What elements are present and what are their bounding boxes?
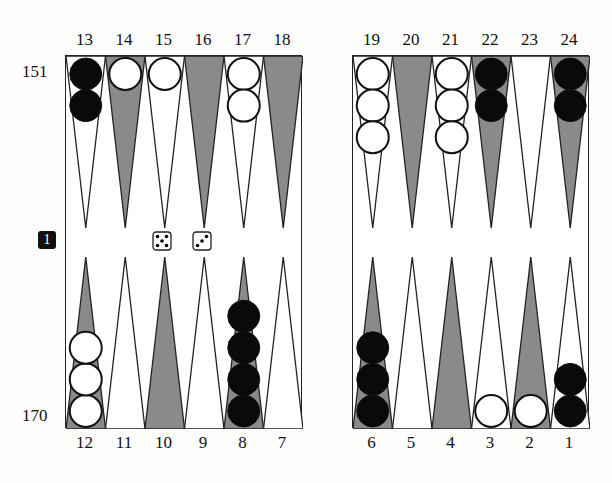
point-label-10: 10 xyxy=(144,433,184,453)
die-five[interactable] xyxy=(152,231,172,251)
white-checker[interactable] xyxy=(475,395,507,427)
point-4[interactable] xyxy=(432,257,472,429)
point-22[interactable] xyxy=(472,56,512,228)
point-label-1: 1 xyxy=(549,433,589,453)
point-9[interactable] xyxy=(185,257,225,429)
white-checker[interactable] xyxy=(70,395,102,427)
point-3[interactable] xyxy=(472,257,512,429)
black-checker[interactable] xyxy=(357,332,389,364)
point-16[interactable] xyxy=(185,56,225,228)
white-checker[interactable] xyxy=(149,58,181,90)
point-label-13: 13 xyxy=(65,30,105,50)
point-10[interactable] xyxy=(145,257,185,429)
point-8[interactable] xyxy=(224,257,264,429)
point-label-14: 14 xyxy=(104,30,144,50)
black-checker[interactable] xyxy=(228,363,260,395)
point-19[interactable] xyxy=(353,56,393,228)
black-checker[interactable] xyxy=(554,395,586,427)
black-checker[interactable] xyxy=(554,363,586,395)
point-15[interactable] xyxy=(145,56,185,228)
point-12[interactable] xyxy=(66,257,106,429)
black-checker[interactable] xyxy=(357,395,389,427)
point-23[interactable] xyxy=(511,56,551,228)
black-checker[interactable] xyxy=(554,90,586,122)
point-label-22: 22 xyxy=(470,30,510,50)
point-label-9: 9 xyxy=(183,433,223,453)
black-checker[interactable] xyxy=(475,90,507,122)
board-left-half xyxy=(65,55,302,428)
black-checker[interactable] xyxy=(228,395,260,427)
point-5[interactable] xyxy=(393,257,433,429)
point-18[interactable] xyxy=(264,56,304,228)
point-label-8: 8 xyxy=(223,433,263,453)
point-21[interactable] xyxy=(432,56,472,228)
point-17[interactable] xyxy=(224,56,264,228)
white-checker[interactable] xyxy=(436,121,468,153)
point-label-7: 7 xyxy=(262,433,302,453)
white-checker[interactable] xyxy=(515,395,547,427)
point-label-20: 20 xyxy=(391,30,431,50)
point-1[interactable] xyxy=(551,257,591,429)
white-checker[interactable] xyxy=(70,332,102,364)
doubling-cube[interactable]: 1 xyxy=(38,231,56,249)
point-label-3: 3 xyxy=(470,433,510,453)
white-checker[interactable] xyxy=(436,90,468,122)
white-checker[interactable] xyxy=(357,121,389,153)
point-label-11: 11 xyxy=(104,433,144,453)
point-label-17: 17 xyxy=(223,30,263,50)
white-checker[interactable] xyxy=(436,58,468,90)
white-checker[interactable] xyxy=(109,58,141,90)
black-checker[interactable] xyxy=(228,300,260,332)
white-checker[interactable] xyxy=(70,363,102,395)
point-label-12: 12 xyxy=(65,433,105,453)
point-13[interactable] xyxy=(66,56,106,228)
point-label-24: 24 xyxy=(549,30,589,50)
white-checker[interactable] xyxy=(228,58,260,90)
point-label-18: 18 xyxy=(262,30,302,50)
point-24[interactable] xyxy=(551,56,591,228)
point-label-6: 6 xyxy=(352,433,392,453)
black-checker[interactable] xyxy=(228,332,260,364)
black-checker[interactable] xyxy=(70,90,102,122)
black-checker[interactable] xyxy=(70,58,102,90)
pip-count-top: 151 xyxy=(22,62,48,82)
point-6[interactable] xyxy=(353,257,393,429)
point-label-23: 23 xyxy=(510,30,550,50)
black-checker[interactable] xyxy=(475,58,507,90)
black-checker[interactable] xyxy=(554,58,586,90)
point-2[interactable] xyxy=(511,257,551,429)
white-checker[interactable] xyxy=(357,90,389,122)
point-label-4: 4 xyxy=(431,433,471,453)
point-label-16: 16 xyxy=(183,30,223,50)
point-label-21: 21 xyxy=(431,30,471,50)
point-label-2: 2 xyxy=(510,433,550,453)
white-checker[interactable] xyxy=(357,58,389,90)
point-label-5: 5 xyxy=(391,433,431,453)
white-checker[interactable] xyxy=(228,90,260,122)
board-right-half xyxy=(352,55,589,428)
point-14[interactable] xyxy=(106,56,146,228)
point-label-19: 19 xyxy=(352,30,392,50)
pip-count-bottom: 170 xyxy=(22,406,48,426)
point-label-15: 15 xyxy=(144,30,184,50)
point-7[interactable] xyxy=(264,257,304,429)
black-checker[interactable] xyxy=(357,363,389,395)
point-11[interactable] xyxy=(106,257,146,429)
die-three[interactable] xyxy=(192,231,212,251)
point-20[interactable] xyxy=(393,56,433,228)
